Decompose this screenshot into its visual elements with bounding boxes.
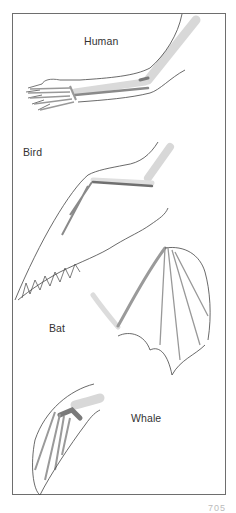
page-number: 705 bbox=[208, 503, 226, 513]
bat-wing-illustration bbox=[93, 247, 210, 375]
whale-flipper-illustration bbox=[33, 384, 100, 495]
label-human: Human bbox=[84, 35, 118, 47]
human-arm-illustration bbox=[26, 14, 196, 110]
label-bird: Bird bbox=[23, 146, 42, 158]
label-bat: Bat bbox=[49, 322, 65, 334]
label-whale: Whale bbox=[131, 412, 161, 424]
